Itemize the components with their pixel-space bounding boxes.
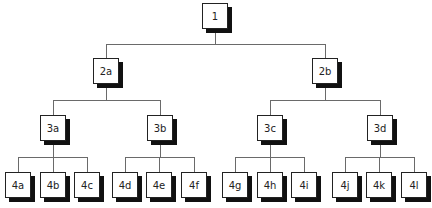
connector-line [125, 157, 195, 158]
connector-line [87, 157, 88, 173]
connector-line [304, 157, 305, 173]
tree-node-4a: 4a [5, 172, 31, 198]
connector-line [380, 100, 381, 116]
connector-line [235, 157, 236, 173]
connector-line [379, 157, 380, 173]
node-label: 4d [112, 172, 138, 198]
connector-line [125, 157, 126, 173]
node-label: 4g [222, 172, 248, 198]
node-label: 4b [40, 172, 66, 198]
connector-line [106, 44, 326, 45]
tree-node-1: 1 [202, 3, 228, 29]
connector-line [414, 157, 415, 173]
connector-line [194, 157, 195, 173]
node-label: 4k [366, 172, 392, 198]
tree-node-3d: 3d [367, 115, 393, 141]
tree-diagram: 12a2b3a3b3c3d4a4b4c4d4e4f4g4h4i4j4k4l [0, 0, 432, 208]
connector-line [53, 100, 54, 116]
tree-node-4e: 4e [146, 172, 172, 198]
node-label: 2b [312, 58, 338, 84]
tree-node-2a: 2a [93, 58, 119, 84]
node-label: 4i [291, 172, 317, 198]
node-label: 1 [202, 3, 228, 29]
connector-line [18, 157, 19, 173]
tree-node-4g: 4g [222, 172, 248, 198]
connector-line [159, 157, 160, 173]
node-label: 2a [93, 58, 119, 84]
tree-node-3c: 3c [257, 115, 283, 141]
node-label: 3d [367, 115, 393, 141]
tree-node-4i: 4i [291, 172, 317, 198]
tree-node-4b: 4b [40, 172, 66, 198]
connector-line [345, 157, 346, 173]
node-label: 4e [146, 172, 172, 198]
node-label: 4f [181, 172, 207, 198]
node-label: 3a [40, 115, 66, 141]
tree-node-4f: 4f [181, 172, 207, 198]
connector-line [106, 44, 107, 59]
node-label: 4a [5, 172, 31, 198]
tree-node-4d: 4d [112, 172, 138, 198]
node-label: 4h [257, 172, 283, 198]
connector-line [53, 100, 161, 101]
tree-node-4k: 4k [366, 172, 392, 198]
tree-node-4l: 4l [401, 172, 427, 198]
tree-node-4c: 4c [74, 172, 100, 198]
node-label: 3c [257, 115, 283, 141]
connector-line [270, 100, 271, 116]
connector-line [270, 100, 381, 101]
node-label: 4l [401, 172, 427, 198]
connector-line [345, 157, 415, 158]
node-label: 4c [74, 172, 100, 198]
node-label: 4j [332, 172, 358, 198]
connector-line [160, 100, 161, 116]
node-label: 3b [147, 115, 173, 141]
connector-line [53, 157, 54, 173]
tree-node-3a: 3a [40, 115, 66, 141]
tree-node-2b: 2b [312, 58, 338, 84]
connector-line [270, 157, 271, 173]
tree-node-3b: 3b [147, 115, 173, 141]
connector-line [325, 44, 326, 59]
tree-node-4h: 4h [257, 172, 283, 198]
tree-node-4j: 4j [332, 172, 358, 198]
